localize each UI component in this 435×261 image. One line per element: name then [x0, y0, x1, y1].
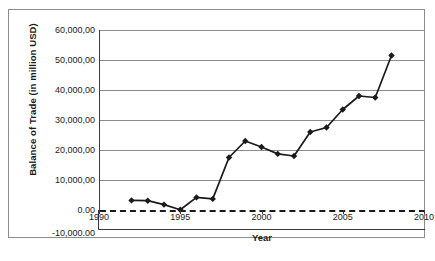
x-axis-tick-label: 2010 — [414, 213, 434, 222]
x-axis-tick-label: 1995 — [170, 213, 190, 222]
chart-frame: Balance of Trade (in million USD) 60,000… — [8, 9, 425, 238]
gridline — [100, 150, 425, 151]
x-axis-tick-label: 2005 — [333, 213, 353, 222]
x-axis-title: Year — [99, 232, 425, 243]
y-axis-tick-label: 0.00 — [29, 206, 95, 215]
y-axis-tick-label: 50,000,00 — [29, 56, 95, 65]
x-axis-tick-labels: 19901995200020052010 — [99, 213, 425, 227]
y-axis-tick-labels: 60,000,0050,000,0040,000,0030,000,0020,0… — [29, 10, 95, 239]
y-axis-tick-label: 60,000,00 — [29, 26, 95, 35]
gridline — [100, 60, 425, 61]
gridline — [100, 120, 425, 121]
x-axis-line — [99, 229, 425, 230]
plot-area — [99, 30, 424, 210]
x-axis-tick-label: 1990 — [89, 213, 109, 222]
chart-figure: Balance of Trade (in million USD) 60,000… — [0, 0, 435, 261]
gridline — [100, 30, 425, 31]
y-axis-tick-label: 20,000,00 — [29, 146, 95, 155]
x-axis-tick-label: 2000 — [251, 213, 271, 222]
y-axis-tick-label: 30,000,00 — [29, 116, 95, 125]
gridline — [100, 180, 425, 181]
y-axis-tick-label: 40,000,00 — [29, 86, 95, 95]
y-axis-tick-label: 10,000,00 — [29, 176, 95, 185]
gridline — [100, 90, 425, 91]
y-axis-tick-label: -10,000.00 — [29, 229, 95, 238]
